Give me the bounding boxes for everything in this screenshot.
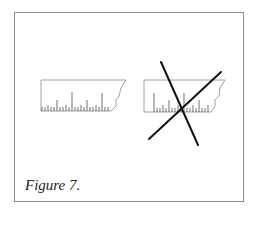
cross-out-icon	[149, 62, 221, 145]
figure-caption: Figure 7.	[25, 177, 80, 194]
ruler-left	[41, 80, 126, 111]
